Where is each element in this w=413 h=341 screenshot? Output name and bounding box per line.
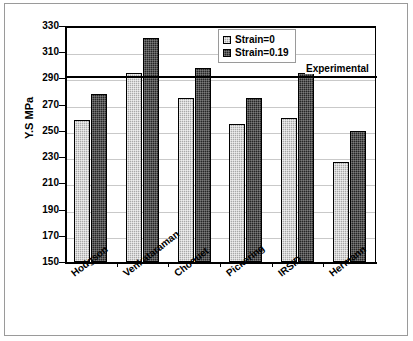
y-axis-tick-label: 190: [13, 205, 59, 215]
bar-hodgson-series0: [74, 120, 90, 262]
y-axis-tick-column: 330310290270250230210190170150: [5, 4, 59, 341]
bar-pickering-series1: [246, 98, 262, 262]
legend-item-label: Strain=0.19: [235, 47, 289, 58]
gridline: [67, 212, 375, 213]
legend-swatch-icon: [223, 49, 231, 57]
y-axis-tick-label: 310: [13, 47, 59, 57]
bar-venkataraman-series0: [126, 73, 142, 262]
x-axis-tick-mark: [117, 262, 118, 267]
x-axis-tick-mark: [323, 262, 324, 267]
bar-choquet-series1: [195, 68, 211, 262]
bar-pickering-series0: [229, 124, 245, 262]
legend-item: Strain=0.19: [223, 46, 289, 59]
chart-legend: Strain=0Strain=0.19: [218, 29, 296, 63]
experimental-line-label: Experimental: [305, 63, 370, 74]
x-axis-tick-mark: [168, 262, 169, 267]
bar-venkataraman-series1: [143, 38, 159, 262]
y-axis-title: Y.S MPa: [23, 78, 35, 158]
legend-swatch-icon: [223, 36, 231, 44]
y-axis-tick-label: 150: [13, 257, 59, 267]
y-axis-tick-label: 330: [13, 21, 59, 31]
bar-irsid-series0: [281, 118, 297, 262]
experimental-reference-line: [65, 76, 377, 78]
gridline: [67, 238, 375, 239]
bar-hermann-series0: [333, 162, 349, 262]
y-axis-tick-label: 170: [13, 231, 59, 241]
gridline: [67, 107, 375, 108]
chart-figure-frame: 330310290270250230210190170150 Y.S MPa H…: [4, 3, 408, 336]
y-axis-tick-label: 270: [13, 100, 59, 110]
bar-irsid-series1: [298, 73, 314, 262]
gridline: [67, 133, 375, 134]
bar-hodgson-series1: [91, 94, 107, 262]
plot-right-border: [375, 26, 376, 263]
legend-item-label: Strain=0: [235, 34, 275, 45]
y-axis-tick-label: 210: [13, 178, 59, 188]
y-axis-tick-label: 250: [13, 126, 59, 136]
gridline: [67, 159, 375, 160]
x-axis-tick-mark: [220, 262, 221, 267]
x-axis-baseline: [65, 262, 377, 264]
x-axis-tick-mark: [272, 262, 273, 267]
legend-item: Strain=0: [223, 33, 289, 46]
y-axis-tick-label: 230: [13, 152, 59, 162]
bar-hermann-series1: [350, 131, 366, 262]
gridline: [67, 185, 375, 186]
y-axis-tick-label: 290: [13, 73, 59, 83]
gridline: [67, 80, 375, 81]
